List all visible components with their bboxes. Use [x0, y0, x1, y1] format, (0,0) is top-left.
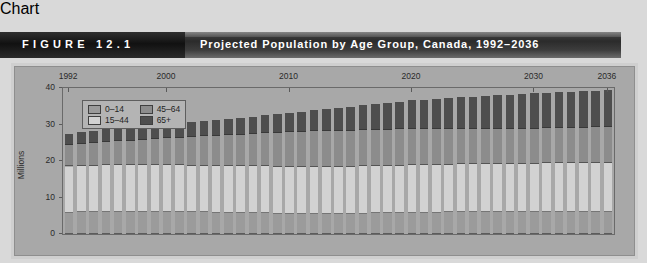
bar-2034	[579, 91, 588, 234]
bar-segment-2014-0–14	[334, 214, 343, 234]
legend-item-1: 45–64	[140, 104, 181, 114]
legend-item-2: 15–44	[88, 115, 129, 125]
bar-2026	[481, 96, 490, 234]
bar-segment-1999-45–64	[151, 139, 160, 165]
bar-segment-2021-0–14	[420, 213, 429, 234]
bar-segment-2009-45–64	[273, 133, 282, 167]
bar-segment-1993-0–14	[77, 212, 86, 234]
bar-segment-2009-0–14	[273, 214, 282, 234]
bar-2019	[395, 102, 404, 234]
bar-segment-2020-45–64	[408, 129, 417, 166]
bar-segment-2004-0–14	[212, 213, 221, 234]
bar-segment-2026-45–64	[481, 129, 490, 164]
bar-segment-2018-65+	[383, 103, 392, 130]
bar-segment-2017-45–64	[371, 130, 380, 167]
bar-segment-2024-0–14	[457, 212, 466, 234]
legend-swatch-65-plus-icon	[140, 116, 153, 125]
bar-segment-2023-65+	[444, 98, 453, 129]
bar-segment-2002-15–44	[187, 166, 196, 213]
bar-segment-1996-15–44	[114, 165, 123, 212]
x-tick-label-2010: 2010	[279, 71, 298, 81]
bar-segment-2035-0–14	[591, 212, 600, 234]
bar-segment-2015-0–14	[346, 214, 355, 234]
bar-segment-2000-0–14	[163, 212, 172, 234]
bar-segment-1993-65+	[77, 132, 86, 144]
x-tick-label-2030: 2030	[524, 71, 543, 81]
bar-segment-1997-0–14	[126, 212, 135, 234]
bar-2027	[493, 95, 502, 234]
bar-1995	[102, 129, 111, 234]
x-tick-label-2036: 2036	[597, 71, 616, 81]
bar-segment-2034-15–44	[579, 163, 588, 212]
y-tick-label-40: 40	[31, 82, 55, 92]
bar-segment-2032-45–64	[555, 128, 564, 163]
bar-2000	[163, 124, 172, 234]
bar-segment-2004-45–64	[212, 136, 221, 166]
bar-segment-2029-15–44	[518, 164, 527, 213]
bar-segment-2019-45–64	[395, 129, 404, 166]
bar-2002	[187, 122, 196, 234]
bar-2028	[506, 95, 515, 234]
bar-segment-2010-0–14	[285, 214, 294, 234]
bar-segment-2023-0–14	[444, 212, 453, 234]
bar-segment-1998-0–14	[138, 212, 147, 234]
bar-segment-2017-0–14	[371, 213, 380, 234]
bar-2017	[371, 104, 380, 234]
bar-segment-2025-0–14	[469, 212, 478, 234]
bar-segment-2006-45–64	[236, 135, 245, 167]
y-tick-label-20: 20	[31, 155, 55, 165]
bar-segment-2001-45–64	[175, 138, 184, 166]
bar-2023	[444, 98, 453, 234]
bar-segment-2018-15–44	[383, 166, 392, 213]
bar-segment-2028-45–64	[506, 129, 515, 164]
bar-segment-2024-65+	[457, 97, 466, 128]
bar-segment-2028-15–44	[506, 164, 515, 213]
bar-2036	[604, 90, 613, 234]
bar-segment-2019-15–44	[395, 166, 404, 213]
chart-legend: 0–14 45–64 15–44 65+	[82, 100, 186, 129]
bar-segment-2012-0–14	[310, 214, 319, 234]
bar-segment-2011-0–14	[297, 214, 306, 234]
bar-1993	[77, 132, 86, 234]
bar-segment-2011-45–64	[297, 132, 306, 167]
bar-segment-1994-45–64	[89, 143, 98, 166]
bar-segment-2008-0–14	[261, 213, 270, 234]
bar-2003	[200, 121, 209, 234]
bar-2001	[175, 123, 184, 234]
bar-segment-2030-65+	[530, 93, 539, 128]
bar-segment-2007-65+	[249, 117, 258, 134]
bar-segment-2021-65+	[420, 100, 429, 129]
bar-segment-2025-65+	[469, 97, 478, 129]
bar-segment-1997-65+	[126, 127, 135, 140]
bar-segment-2005-65+	[224, 119, 233, 135]
bar-2030	[530, 93, 539, 234]
bar-segment-2028-65+	[506, 95, 515, 129]
bar-segment-2026-65+	[481, 96, 490, 129]
bar-segment-2003-65+	[200, 121, 209, 136]
bar-2025	[469, 97, 478, 234]
bar-segment-2012-65+	[310, 110, 319, 131]
bar-segment-2029-65+	[518, 94, 527, 129]
bar-segment-2023-15–44	[444, 165, 453, 213]
bar-segment-2035-65+	[591, 91, 600, 128]
legend-swatch-45-64-icon	[140, 105, 153, 114]
bar-segment-2022-0–14	[432, 213, 441, 234]
y-tick-label-30: 30	[31, 119, 55, 129]
bar-segment-2024-45–64	[457, 129, 466, 165]
bar-2012	[310, 110, 319, 234]
bar-segment-2007-45–64	[249, 134, 258, 166]
bar-segment-2002-0–14	[187, 212, 196, 234]
legend-swatch-0-14-icon	[88, 105, 101, 114]
bar-segment-1998-15–44	[138, 165, 147, 212]
bar-segment-2003-15–44	[200, 166, 209, 213]
bar-segment-2036-65+	[604, 90, 613, 127]
bar-segment-1997-45–64	[126, 141, 135, 166]
bar-2015	[346, 107, 355, 234]
bar-2018	[383, 103, 392, 234]
bar-segment-2022-65+	[432, 99, 441, 129]
bar-1997	[126, 127, 135, 234]
bar-segment-2021-15–44	[420, 165, 429, 212]
bar-segment-2028-0–14	[506, 212, 515, 234]
bar-segment-2016-65+	[359, 105, 368, 130]
bar-2009	[273, 114, 282, 234]
